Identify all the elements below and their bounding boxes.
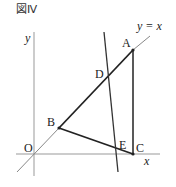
point-C <box>131 152 134 155</box>
label-B: B <box>47 115 55 129</box>
line-DE <box>104 32 118 172</box>
point-B <box>57 126 60 129</box>
line-y-eq-x-label: y = x <box>136 19 162 33</box>
label-C: C <box>136 141 144 155</box>
label-A: A <box>122 36 131 50</box>
origin-label: O <box>24 141 33 155</box>
y-axis-label: y <box>24 31 31 45</box>
segment-BA <box>59 50 133 128</box>
label-E: E <box>119 138 126 152</box>
x-axis-label: x <box>143 154 150 168</box>
point-A <box>131 48 134 51</box>
diagram-canvas: 図Ⅳ y O x y = x A B C D E <box>0 0 176 187</box>
label-D: D <box>95 67 104 81</box>
figure-diagram: 図Ⅳ y O x y = x A B C D E <box>0 0 176 187</box>
figure-title: 図Ⅳ <box>16 3 38 16</box>
line-y-eq-x-upper <box>133 36 150 50</box>
